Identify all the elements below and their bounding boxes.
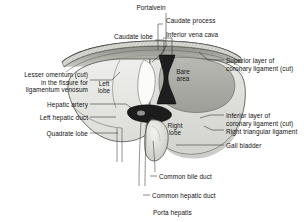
liver-illustration [0, 0, 308, 222]
callout-porta-hepatis: Porta hepatis [153, 209, 192, 217]
callout-left-hepatic-duct: Left hepatic duct [40, 114, 88, 122]
callout-common-hepatic-duct: Common hepatic duct [152, 192, 216, 200]
callout-gall-bladder: Gall bladder [226, 142, 261, 150]
liver-anatomy-figure: PortalveinCaudate processInferior vena c… [0, 0, 308, 222]
callout-caudate-process: Caudate process [166, 17, 216, 25]
organ-label-right-lobe: Right lobe [145, 122, 205, 137]
organ-label-left-lobe: Left lobe [74, 80, 134, 95]
callout-superior-layer-coronary: Superior layer of coronary ligament (cut… [226, 57, 293, 72]
callout-inferior-vena-cava: Inferior vena cava [166, 31, 218, 39]
organ-label-bare-area: Bare area [153, 68, 213, 83]
callout-quadrate-lobe: Quadrate lobe [46, 130, 88, 138]
callout-caudate-lobe: Caudate lobe [114, 33, 153, 41]
callout-inferior-layer-coronary: Inferior layer of coronary ligament (cut… [226, 112, 293, 127]
callout-right-triangular-ligament: Right triangular ligament [226, 128, 297, 136]
callout-portal-vein: Portalvein [91, 4, 211, 12]
callout-common-bile-duct: Common bile duct [159, 173, 212, 181]
callout-hepatic-artery: Hepatic artery [47, 101, 88, 109]
